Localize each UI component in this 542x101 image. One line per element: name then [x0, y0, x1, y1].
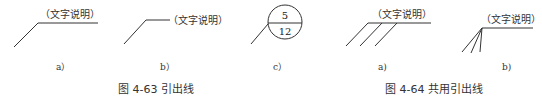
leader-line-1 [462, 28, 482, 52]
fig-4-64-b: （文字说明） b) [462, 13, 541, 72]
panel-label: c） [273, 62, 287, 72]
diagram-canvas: （文字说明） a） （文字说明） b） 5 12 c） 图 4-63 引出线 （… [0, 0, 542, 101]
fig-4-63-c: 5 12 c） [251, 5, 302, 72]
annotation-text: （文字说明） [372, 8, 432, 20]
leader-line [14, 23, 98, 47]
panel-label: a） [56, 62, 70, 72]
leader-line-1 [346, 23, 368, 46]
fig-4-64-a: （文字说明） a) [346, 8, 432, 72]
fig-4-63-b: （文字说明） b） [124, 14, 228, 72]
leader-line [124, 20, 170, 44]
fig-4-63-a: （文字说明） a） [14, 8, 100, 72]
annotation-text: （文字说明） [40, 8, 100, 20]
annotation-text: （文字说明） [168, 14, 228, 26]
panel-label: b) [502, 62, 511, 72]
annotation-text: （文字说明） [481, 13, 541, 25]
panel-label: a) [378, 62, 387, 72]
panel-label: b） [160, 62, 175, 72]
circle-bottom-number: 12 [279, 26, 292, 37]
circle-top-number: 5 [282, 10, 288, 21]
figure-caption-4-63: 图 4-63 引出线 [118, 82, 194, 96]
figure-caption-4-64: 图 4-64 共用引出线 [385, 82, 483, 96]
leader-line [251, 24, 268, 44]
